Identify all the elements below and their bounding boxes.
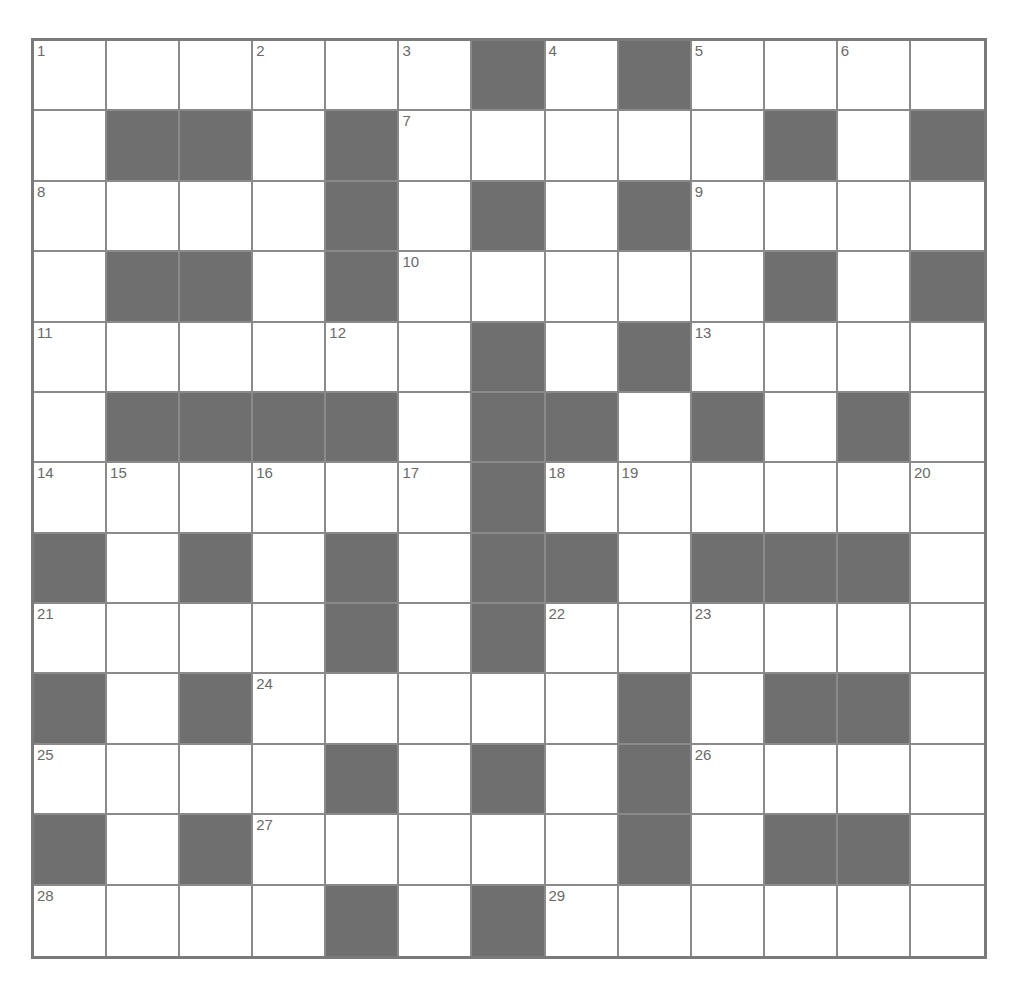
answer-cell-r4-c3[interactable] xyxy=(253,323,326,393)
answer-cell-r0-c10[interactable] xyxy=(765,41,838,111)
answer-cell-r4-c1[interactable] xyxy=(107,323,180,393)
answer-cell-r2-c9[interactable]: 9 xyxy=(692,182,765,252)
answer-cell-r6-c5[interactable]: 17 xyxy=(399,463,472,533)
answer-cell-r8-c12[interactable] xyxy=(911,604,984,674)
answer-cell-r8-c5[interactable] xyxy=(399,604,472,674)
answer-cell-r9-c7[interactable] xyxy=(546,674,619,744)
answer-cell-r12-c7[interactable]: 29 xyxy=(546,886,619,956)
answer-cell-r1-c5[interactable]: 7 xyxy=(399,111,472,181)
answer-cell-r4-c0[interactable]: 11 xyxy=(34,323,107,393)
answer-cell-r4-c11[interactable] xyxy=(838,323,911,393)
answer-cell-r2-c1[interactable] xyxy=(107,182,180,252)
answer-cell-r6-c12[interactable]: 20 xyxy=(911,463,984,533)
answer-cell-r10-c1[interactable] xyxy=(107,745,180,815)
answer-cell-r12-c2[interactable] xyxy=(180,886,253,956)
answer-cell-r8-c3[interactable] xyxy=(253,604,326,674)
answer-cell-r11-c6[interactable] xyxy=(472,815,545,885)
answer-cell-r10-c2[interactable] xyxy=(180,745,253,815)
answer-cell-r6-c0[interactable]: 14 xyxy=(34,463,107,533)
answer-cell-r3-c3[interactable] xyxy=(253,252,326,322)
answer-cell-r5-c5[interactable] xyxy=(399,393,472,463)
answer-cell-r9-c4[interactable] xyxy=(326,674,399,744)
answer-cell-r6-c3[interactable]: 16 xyxy=(253,463,326,533)
answer-cell-r0-c0[interactable]: 1 xyxy=(34,41,107,111)
answer-cell-r3-c8[interactable] xyxy=(619,252,692,322)
answer-cell-r9-c9[interactable] xyxy=(692,674,765,744)
answer-cell-r12-c5[interactable] xyxy=(399,886,472,956)
answer-cell-r2-c5[interactable] xyxy=(399,182,472,252)
answer-cell-r0-c12[interactable] xyxy=(911,41,984,111)
answer-cell-r8-c0[interactable]: 21 xyxy=(34,604,107,674)
answer-cell-r2-c7[interactable] xyxy=(546,182,619,252)
answer-cell-r12-c12[interactable] xyxy=(911,886,984,956)
answer-cell-r9-c6[interactable] xyxy=(472,674,545,744)
answer-cell-r6-c9[interactable] xyxy=(692,463,765,533)
answer-cell-r11-c9[interactable] xyxy=(692,815,765,885)
answer-cell-r8-c10[interactable] xyxy=(765,604,838,674)
answer-cell-r7-c3[interactable] xyxy=(253,534,326,604)
answer-cell-r10-c0[interactable]: 25 xyxy=(34,745,107,815)
answer-cell-r1-c0[interactable] xyxy=(34,111,107,181)
answer-cell-r12-c11[interactable] xyxy=(838,886,911,956)
answer-cell-r4-c5[interactable] xyxy=(399,323,472,393)
answer-cell-r11-c3[interactable]: 27 xyxy=(253,815,326,885)
answer-cell-r12-c9[interactable] xyxy=(692,886,765,956)
answer-cell-r10-c10[interactable] xyxy=(765,745,838,815)
answer-cell-r9-c5[interactable] xyxy=(399,674,472,744)
answer-cell-r2-c12[interactable] xyxy=(911,182,984,252)
answer-cell-r7-c5[interactable] xyxy=(399,534,472,604)
answer-cell-r11-c5[interactable] xyxy=(399,815,472,885)
answer-cell-r10-c12[interactable] xyxy=(911,745,984,815)
answer-cell-r0-c3[interactable]: 2 xyxy=(253,41,326,111)
answer-cell-r3-c5[interactable]: 10 xyxy=(399,252,472,322)
answer-cell-r3-c11[interactable] xyxy=(838,252,911,322)
answer-cell-r1-c8[interactable] xyxy=(619,111,692,181)
answer-cell-r6-c4[interactable] xyxy=(326,463,399,533)
answer-cell-r2-c3[interactable] xyxy=(253,182,326,252)
answer-cell-r5-c10[interactable] xyxy=(765,393,838,463)
answer-cell-r5-c8[interactable] xyxy=(619,393,692,463)
answer-cell-r6-c10[interactable] xyxy=(765,463,838,533)
answer-cell-r10-c7[interactable] xyxy=(546,745,619,815)
answer-cell-r0-c2[interactable] xyxy=(180,41,253,111)
answer-cell-r6-c7[interactable]: 18 xyxy=(546,463,619,533)
answer-cell-r2-c2[interactable] xyxy=(180,182,253,252)
answer-cell-r8-c9[interactable]: 23 xyxy=(692,604,765,674)
answer-cell-r12-c8[interactable] xyxy=(619,886,692,956)
answer-cell-r9-c3[interactable]: 24 xyxy=(253,674,326,744)
answer-cell-r6-c8[interactable]: 19 xyxy=(619,463,692,533)
answer-cell-r9-c1[interactable] xyxy=(107,674,180,744)
answer-cell-r8-c7[interactable]: 22 xyxy=(546,604,619,674)
answer-cell-r0-c4[interactable] xyxy=(326,41,399,111)
answer-cell-r7-c1[interactable] xyxy=(107,534,180,604)
answer-cell-r1-c3[interactable] xyxy=(253,111,326,181)
answer-cell-r6-c2[interactable] xyxy=(180,463,253,533)
answer-cell-r6-c11[interactable] xyxy=(838,463,911,533)
answer-cell-r4-c4[interactable]: 12 xyxy=(326,323,399,393)
answer-cell-r2-c10[interactable] xyxy=(765,182,838,252)
answer-cell-r1-c6[interactable] xyxy=(472,111,545,181)
answer-cell-r3-c6[interactable] xyxy=(472,252,545,322)
answer-cell-r7-c12[interactable] xyxy=(911,534,984,604)
answer-cell-r6-c1[interactable]: 15 xyxy=(107,463,180,533)
answer-cell-r4-c9[interactable]: 13 xyxy=(692,323,765,393)
answer-cell-r11-c12[interactable] xyxy=(911,815,984,885)
answer-cell-r10-c9[interactable]: 26 xyxy=(692,745,765,815)
answer-cell-r0-c7[interactable]: 4 xyxy=(546,41,619,111)
answer-cell-r12-c3[interactable] xyxy=(253,886,326,956)
answer-cell-r8-c11[interactable] xyxy=(838,604,911,674)
answer-cell-r4-c10[interactable] xyxy=(765,323,838,393)
answer-cell-r2-c0[interactable]: 8 xyxy=(34,182,107,252)
answer-cell-r0-c9[interactable]: 5 xyxy=(692,41,765,111)
answer-cell-r8-c1[interactable] xyxy=(107,604,180,674)
answer-cell-r8-c2[interactable] xyxy=(180,604,253,674)
answer-cell-r10-c3[interactable] xyxy=(253,745,326,815)
answer-cell-r4-c2[interactable] xyxy=(180,323,253,393)
answer-cell-r12-c0[interactable]: 28 xyxy=(34,886,107,956)
answer-cell-r3-c9[interactable] xyxy=(692,252,765,322)
answer-cell-r2-c11[interactable] xyxy=(838,182,911,252)
answer-cell-r10-c5[interactable] xyxy=(399,745,472,815)
answer-cell-r11-c1[interactable] xyxy=(107,815,180,885)
answer-cell-r4-c12[interactable] xyxy=(911,323,984,393)
answer-cell-r7-c8[interactable] xyxy=(619,534,692,604)
